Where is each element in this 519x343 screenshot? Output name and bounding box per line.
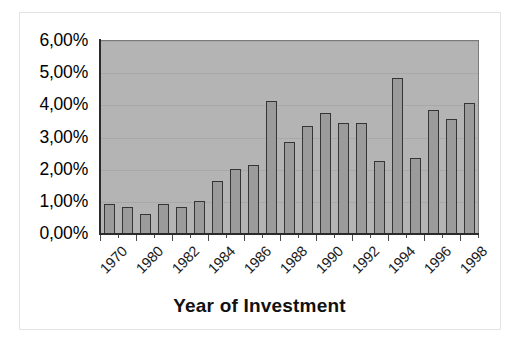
y-axis-tick-labels: 0,00%1,00%2,00%3,00%4,00%5,00%6,00% bbox=[18, 40, 94, 233]
bar bbox=[374, 161, 385, 234]
bar bbox=[338, 123, 349, 234]
y-axis-tick-label: 4,00% bbox=[39, 94, 88, 115]
x-axis-tick-label: 1990 bbox=[313, 243, 347, 277]
bar bbox=[446, 119, 457, 234]
y-axis-tick-label: 3,00% bbox=[39, 126, 88, 147]
bar bbox=[410, 158, 421, 234]
x-axis-tick-label: 1982 bbox=[169, 243, 203, 277]
bar bbox=[122, 207, 133, 234]
bar-chart-figure: 0,00%1,00%2,00%3,00%4,00%5,00%6,00% 1970… bbox=[0, 0, 519, 343]
x-axis-tick-label: 1970 bbox=[97, 243, 131, 277]
bar bbox=[230, 169, 241, 234]
x-axis-tick-label: 1986 bbox=[241, 243, 275, 277]
x-axis-tick-label: 1980 bbox=[133, 243, 167, 277]
bar bbox=[428, 110, 439, 234]
bar bbox=[212, 181, 223, 234]
bar bbox=[248, 165, 259, 234]
y-axis-tick-label: 6,00% bbox=[39, 30, 88, 51]
x-axis-tick-labels: 1970198019821984198619881990199219941996… bbox=[0, 235, 519, 295]
x-axis-title: Year of Investment bbox=[0, 295, 519, 317]
y-axis-tick-label: 5,00% bbox=[39, 62, 88, 83]
x-axis-tick-label: 1994 bbox=[385, 243, 419, 277]
x-axis-tick-label: 1998 bbox=[457, 243, 491, 277]
y-axis-tick-label: 2,00% bbox=[39, 158, 88, 179]
bar bbox=[194, 201, 205, 234]
bar bbox=[392, 78, 403, 234]
bar bbox=[320, 113, 331, 234]
x-axis-tick-label: 1984 bbox=[205, 243, 239, 277]
bar bbox=[104, 204, 115, 234]
y-axis-line bbox=[99, 39, 101, 235]
plot-area bbox=[100, 40, 479, 234]
bar bbox=[356, 123, 367, 234]
bar bbox=[158, 204, 169, 234]
x-axis-tick-label: 1996 bbox=[421, 243, 455, 277]
x-axis-tick-label: 1992 bbox=[349, 243, 383, 277]
bar bbox=[266, 101, 277, 234]
bar bbox=[284, 142, 295, 234]
bar bbox=[302, 126, 313, 234]
bar-series bbox=[100, 41, 478, 234]
bar bbox=[140, 214, 151, 234]
bar bbox=[176, 207, 187, 234]
x-axis-tick-label: 1988 bbox=[277, 243, 311, 277]
y-axis-tick-label: 1,00% bbox=[39, 190, 88, 211]
bar bbox=[464, 103, 475, 234]
